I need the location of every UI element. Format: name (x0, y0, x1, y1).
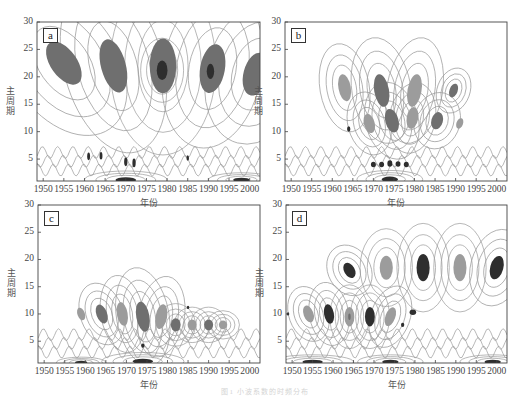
wavelet-region-dark (401, 323, 404, 327)
wavelet-region-mid (447, 82, 460, 98)
panel-label: d (292, 211, 307, 226)
wavelet-region-light (405, 106, 420, 130)
y-tick-label: 20 (19, 72, 33, 82)
wavelet-region-light (380, 256, 393, 280)
y-tick-label: 25 (20, 227, 34, 237)
wavelet-region-dark (100, 152, 103, 160)
wavelet-region-dark (207, 64, 214, 79)
y-axis-label: 主周期 (4, 86, 17, 116)
plot-area (285, 33, 507, 189)
wavelet-region-dark (347, 126, 350, 131)
panel-label: b (291, 28, 306, 43)
wavelet-region-dark (365, 307, 375, 327)
y-tick-label: 30 (19, 17, 33, 27)
wavelet-region-dark (157, 60, 168, 80)
y-tick-label: 20 (20, 254, 34, 264)
plot-svg (0, 0, 262, 198)
wavelet-region-dark (387, 160, 392, 167)
plot-area (272, 223, 524, 369)
plot-frame (38, 205, 260, 363)
figure-caption: 图1 小波系数的时频分布 (150, 386, 380, 396)
panel-b: 5101520253019501955196019651970197519801… (262, 0, 524, 198)
y-tick-label: 20 (268, 254, 282, 264)
y-tick-label: 15 (20, 282, 34, 292)
wavelet-region-light (301, 304, 316, 324)
x-tick-label: 2000 (237, 367, 263, 377)
wavelet-region-light (453, 254, 466, 281)
wavelet-region-mid (429, 111, 445, 131)
wavelet-region-dark (341, 261, 358, 280)
wavelet-region-dark (186, 155, 188, 160)
y-tick-label: 10 (19, 127, 33, 137)
y-tick-label: 15 (19, 99, 33, 109)
y-tick-label: 25 (267, 44, 281, 54)
wavelet-region-dark (322, 303, 335, 324)
plot-area (38, 263, 260, 370)
wavelet-region-mid (93, 303, 110, 325)
y-tick-label: 10 (20, 309, 34, 319)
wavelet-region-light (336, 73, 353, 102)
wavelet-region-mid (348, 313, 350, 320)
wavelet-region-dark (141, 343, 144, 347)
plot-svg (0, 184, 262, 384)
y-tick-label: 30 (268, 200, 282, 210)
contour-line (37, 147, 260, 159)
panel-label: c (44, 211, 59, 226)
y-tick-label: 30 (20, 200, 34, 210)
y-axis-label: 主周期 (253, 268, 266, 298)
wavelet-region-mid (204, 319, 213, 330)
wavelet-region-dark (417, 254, 430, 281)
wavelet-region-dark (371, 162, 376, 167)
y-tick-label: 5 (268, 336, 282, 346)
wavelet-region-dark (379, 162, 384, 167)
y-axis-label: 主周期 (252, 86, 265, 116)
y-tick-label: 15 (268, 282, 282, 292)
wavelet-region-dark (396, 161, 401, 166)
y-tick-label: 15 (267, 99, 281, 109)
x-axis-label: 年份 (377, 378, 417, 391)
y-tick-label: 30 (267, 17, 281, 27)
x-tick-label: 2000 (484, 367, 510, 377)
wavelet-region-dark (487, 254, 506, 281)
y-tick-label: 10 (267, 127, 281, 137)
wavelet-region-dark (187, 306, 189, 309)
contour-line (285, 147, 507, 159)
y-tick-label: 10 (268, 309, 282, 319)
wavelet-region-mid (39, 35, 89, 91)
wavelet-region-light (382, 306, 398, 328)
y-axis-label: 主周期 (5, 268, 18, 298)
y-tick-label: 25 (19, 44, 33, 54)
wavelet-region-dark (132, 159, 135, 168)
y-tick-label: 25 (268, 227, 282, 237)
panel-label: a (43, 28, 58, 43)
panel-d: 5101520253019501955196019651970197519801… (262, 184, 524, 384)
wavelet-region-dark (124, 157, 127, 166)
wavelet-region-light (219, 321, 227, 330)
wavelet-region-dark (404, 162, 409, 167)
wavelet-region-mid (171, 318, 181, 331)
wavelet-region-light (362, 113, 377, 135)
wavelet-region-light (455, 117, 465, 130)
wavelet-region-light (188, 319, 197, 330)
panel-c: 5101520253019501955196019651970197519801… (0, 184, 262, 384)
panel-a: 5101520253019501955196019651970197519801… (0, 0, 262, 198)
wavelet-region-dark (410, 310, 417, 315)
y-tick-label: 20 (267, 72, 281, 82)
y-tick-label: 5 (267, 154, 281, 164)
y-tick-label: 5 (20, 336, 34, 346)
y-tick-label: 5 (19, 154, 33, 164)
wavelet-region-dark (87, 152, 90, 160)
